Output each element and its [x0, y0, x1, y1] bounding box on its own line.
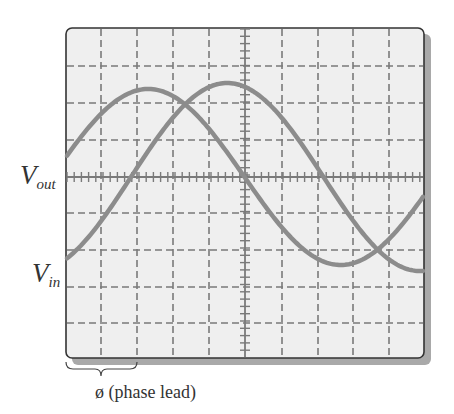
vin-label: Vin: [32, 258, 60, 289]
vout-label: Vout: [20, 160, 56, 191]
phase-lead-label: ø (phase lead): [95, 382, 196, 403]
oscilloscope-screen: [0, 0, 454, 414]
